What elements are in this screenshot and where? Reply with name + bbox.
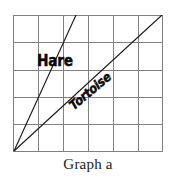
- graph-figure: Hare Tortoise Graph a: [0, 0, 176, 180]
- plot-area: Hare Tortoise: [13, 15, 163, 152]
- figure-caption: Graph a: [0, 156, 176, 173]
- series-label-hare: Hare: [37, 53, 73, 69]
- series-line-hare: [14, 15, 76, 151]
